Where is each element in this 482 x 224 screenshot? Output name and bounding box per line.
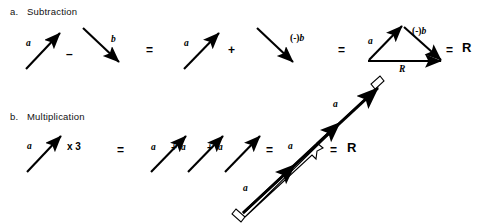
label-mult-vector-a: a bbox=[27, 141, 32, 151]
arrow-sum-term-3 bbox=[225, 136, 260, 172]
operator-mult-equals-3: = bbox=[330, 143, 337, 157]
label-result-R-subtraction: R bbox=[462, 40, 471, 55]
neg-b-letter: b bbox=[300, 33, 305, 43]
label-long-segment-3: a bbox=[333, 99, 338, 109]
label-sum-term-2: a bbox=[181, 142, 186, 152]
label-long-segment-2: a bbox=[288, 141, 293, 151]
operator-minus: – bbox=[66, 47, 73, 61]
triangle-neg-b-paren: (-) bbox=[412, 26, 422, 36]
operator-sum-plus-2: + bbox=[207, 142, 213, 153]
arrow-vector-a-1 bbox=[26, 33, 60, 69]
triangle-side-a bbox=[369, 26, 402, 60]
label-vector-a-1: a bbox=[26, 38, 31, 48]
operator-times-3: x 3 bbox=[67, 141, 81, 152]
operator-sum-plus-1: + bbox=[171, 142, 177, 153]
label-triangle-a: a bbox=[368, 36, 373, 46]
label-vector-neg-b: (-)b bbox=[290, 33, 304, 43]
arrow-vector-neg-b bbox=[257, 28, 293, 62]
brace-outline-long-vector bbox=[232, 76, 384, 222]
label-triangle-resultant: R bbox=[399, 64, 405, 74]
arrow-mult-vector-a bbox=[27, 136, 61, 172]
vector-diagram-canvas bbox=[0, 0, 482, 224]
neg-b-paren: (-) bbox=[290, 33, 300, 43]
operator-equals-3: = bbox=[446, 43, 453, 57]
label-long-segment-1: a bbox=[243, 183, 248, 193]
label-sum-term-1: a bbox=[151, 142, 156, 152]
arrow-vector-a-2 bbox=[184, 33, 219, 69]
operator-mult-equals-1: = bbox=[117, 143, 124, 157]
operator-mult-equals-2: = bbox=[266, 143, 273, 157]
label-triangle-neg-b: (-)b bbox=[412, 26, 426, 36]
operator-equals-1: = bbox=[146, 43, 153, 57]
label-sum-term-3: a bbox=[218, 142, 223, 152]
label-vector-a-2: a bbox=[184, 38, 189, 48]
label-result-R-multiplication: R bbox=[347, 140, 356, 155]
vector-arithmetic-figure: a. Subtraction b. Multiplication bbox=[0, 0, 482, 224]
operator-plus: + bbox=[228, 43, 235, 57]
label-vector-b: b bbox=[111, 34, 116, 44]
operator-equals-2: = bbox=[338, 43, 345, 57]
triangle-neg-b-letter: b bbox=[422, 26, 427, 36]
